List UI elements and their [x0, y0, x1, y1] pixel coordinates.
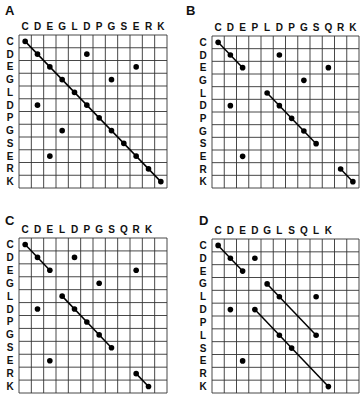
match-dot [35, 102, 41, 108]
column-label: G [300, 22, 308, 33]
row-label: S [200, 343, 207, 354]
row-label: D [6, 100, 13, 111]
column-label: Q [324, 22, 332, 33]
column-label: D [251, 225, 258, 236]
match-dot [84, 51, 90, 57]
column-label: G [263, 225, 271, 236]
column-label: K [145, 224, 153, 235]
match-dot [158, 179, 164, 185]
row-label: D [6, 304, 13, 315]
row-label: P [7, 316, 14, 327]
panel-d: D CDEDGLSQLKCDEGLDPLSERK [182, 200, 363, 398]
column-label: S [108, 224, 115, 235]
row-label: R [199, 368, 207, 379]
panel-b: B CDEPLDPGSQRKCDEGLDPGSERK [182, 0, 363, 198]
row-label: R [6, 163, 14, 174]
match-dot [35, 51, 41, 57]
row-label: L [200, 330, 206, 341]
row-label: K [199, 381, 207, 392]
match-dot [22, 242, 28, 248]
row-label: G [199, 278, 207, 289]
row-label: P [200, 113, 207, 124]
row-label: K [6, 381, 14, 392]
row-label: C [199, 37, 206, 48]
column-label: R [145, 21, 153, 32]
match-dot [338, 166, 344, 172]
panel-a: A CDEGLDPGSERKCDEGLDPGSERK [0, 0, 182, 198]
match-dot [96, 280, 102, 286]
row-label: D [6, 252, 13, 263]
match-dot [240, 268, 246, 274]
column-label: P [96, 21, 103, 32]
match-dot [277, 332, 283, 338]
row-label: R [199, 164, 207, 175]
match-dot [109, 77, 115, 83]
match-dot [96, 115, 102, 121]
row-label: D [199, 50, 206, 61]
match-dot [22, 39, 28, 45]
column-label: E [133, 21, 140, 32]
row-label: S [7, 342, 14, 353]
column-label: P [252, 22, 259, 33]
match-dot [146, 384, 152, 390]
row-label: R [6, 368, 14, 379]
match-dot [47, 267, 53, 273]
match-dot [35, 306, 41, 312]
match-dot [133, 64, 139, 70]
match-dot [289, 116, 295, 122]
row-label: C [6, 36, 13, 47]
match-dot [277, 52, 283, 58]
match-dot [59, 77, 65, 83]
dot-plot-c: CDELDPGSQRKCDEGLDPGSERK [0, 200, 182, 398]
column-label: Q [300, 225, 308, 236]
match-dot [350, 179, 356, 185]
match-dot [109, 128, 115, 134]
row-label: S [7, 138, 14, 149]
match-dot [133, 153, 139, 159]
match-dot [121, 141, 127, 147]
column-label: K [157, 21, 165, 32]
match-dot [47, 153, 53, 159]
column-label: D [34, 21, 41, 32]
dot-plot-a: CDEGLDPGSERKCDEGLDPGSERK [0, 0, 182, 198]
match-dot [289, 345, 295, 351]
row-label: L [200, 291, 206, 302]
column-label: E [46, 21, 53, 32]
row-label: D [199, 253, 206, 264]
column-label: C [22, 21, 29, 32]
match-dot [146, 166, 152, 172]
row-label: D [199, 100, 206, 111]
column-label: S [120, 21, 127, 32]
match-dot [252, 307, 258, 313]
match-dot [277, 294, 283, 300]
match-dot [264, 90, 270, 96]
match-dot [59, 293, 65, 299]
match-dot [133, 267, 139, 273]
match-dot [59, 128, 65, 134]
column-label: S [313, 22, 320, 33]
match-dot [240, 358, 246, 364]
match-dot [84, 319, 90, 325]
row-label: K [199, 176, 207, 187]
row-label: D [199, 304, 206, 315]
row-label: C [199, 240, 206, 251]
column-label: E [239, 225, 246, 236]
match-dot [313, 294, 319, 300]
match-dot [240, 154, 246, 160]
panel-c: C CDELDPGSQRKCDEGLDPGSERK [0, 200, 182, 398]
match-dot [252, 255, 258, 261]
column-label: R [133, 224, 141, 235]
column-label: G [95, 224, 103, 235]
column-label: L [313, 225, 319, 236]
row-label: E [7, 61, 14, 72]
column-label: C [22, 224, 29, 235]
match-dot [109, 345, 115, 351]
match-dot [326, 65, 332, 71]
match-dot [228, 103, 234, 109]
dot-plot-b: CDEPLDPGSQRKCDEGLDPGSERK [182, 0, 363, 198]
dot-plot-d: CDEDGLSQLKCDEGLDPLSERK [182, 200, 363, 398]
row-label: E [7, 151, 14, 162]
column-label: C [215, 22, 222, 33]
column-label: D [71, 224, 78, 235]
row-label: L [7, 291, 13, 302]
